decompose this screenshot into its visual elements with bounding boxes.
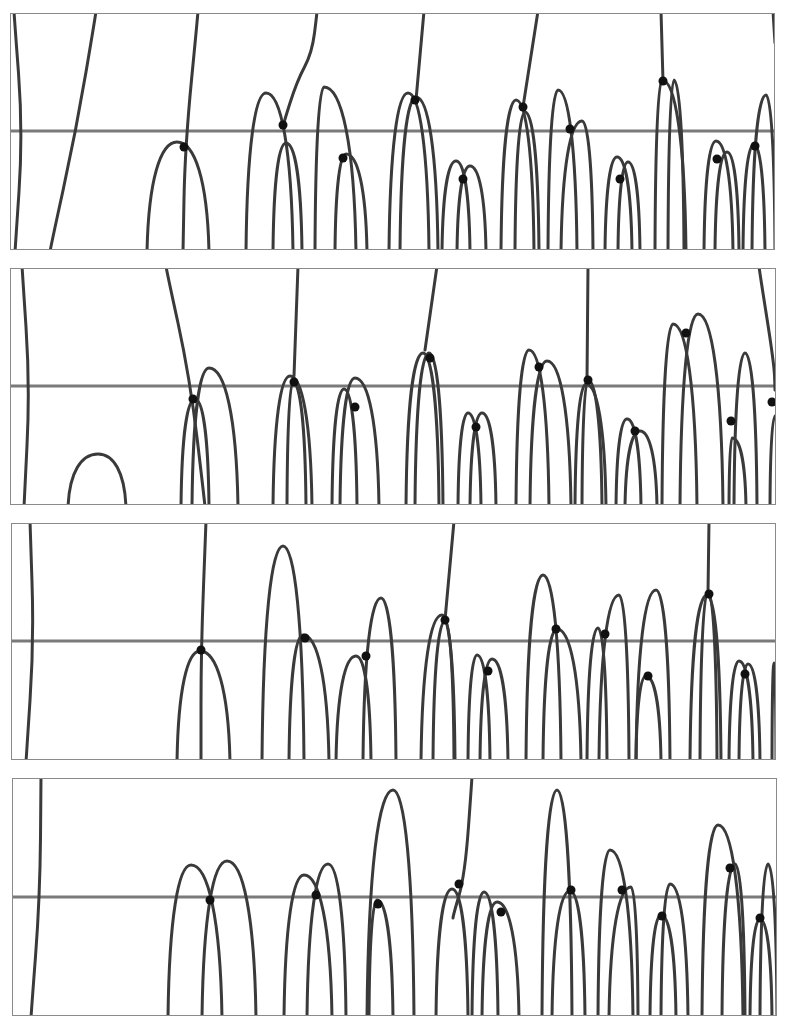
intersection-dot: [567, 886, 576, 895]
arch-curve: [482, 902, 519, 1018]
figure-canvas: [0, 0, 799, 1023]
intersection-dot: [713, 155, 722, 164]
arch-curve: [636, 676, 661, 762]
panel-1: [10, 11, 775, 252]
intersection-dot: [497, 908, 506, 917]
arch-curve: [542, 790, 572, 1018]
intersection-dot: [616, 175, 625, 184]
intersection-dot: [484, 667, 493, 676]
intersection-dot: [566, 125, 575, 134]
arch-curve: [739, 664, 760, 762]
arch-curve: [262, 546, 304, 762]
intersection-dot: [441, 616, 450, 625]
intersection-dot: [618, 886, 627, 895]
arch-curve: [552, 891, 585, 1018]
intersection-dot: [726, 864, 735, 873]
intersection-dot: [601, 630, 610, 639]
intersection-dot: [658, 912, 667, 921]
intersection-dot: [351, 403, 360, 412]
intersection-dot: [301, 634, 310, 643]
arch-curve: [599, 595, 629, 762]
arch-curve: [480, 659, 508, 762]
arch-curve: [530, 361, 571, 507]
intersection-dot: [741, 670, 750, 679]
intersection-dot: [279, 121, 288, 130]
branch-line: [661, 11, 663, 81]
branch-line: [283, 11, 317, 127]
intersection-dot: [552, 625, 561, 634]
panel-2: [10, 266, 780, 507]
arch-curve: [598, 850, 633, 1018]
intersection-dot: [727, 417, 736, 426]
intersection-dot: [197, 646, 206, 655]
arch-curve: [147, 142, 209, 252]
branch-line: [294, 266, 298, 376]
intersection-dot: [374, 900, 383, 909]
intersection-dot: [535, 363, 544, 372]
intersection-dot: [472, 423, 481, 432]
arch-curve: [369, 900, 393, 1018]
arch-curve: [177, 651, 230, 762]
arch-curve: [168, 865, 222, 1018]
branch-line: [523, 11, 538, 107]
branch-line: [708, 521, 709, 593]
intersection-dot: [455, 880, 464, 889]
intersection-dot: [411, 96, 420, 105]
arch-curve: [582, 380, 602, 507]
arch-curve: [636, 590, 670, 762]
arch-curve: [340, 378, 379, 507]
arch-curve: [202, 861, 256, 1018]
intersection-dot: [584, 376, 593, 385]
intersection-dot: [631, 427, 640, 436]
intersection-dot: [459, 175, 468, 184]
intersection-dot: [644, 672, 653, 681]
intersection-dot: [756, 914, 765, 923]
intersection-dot: [705, 590, 714, 599]
intersection-dot: [180, 143, 189, 152]
branch-line: [587, 266, 588, 380]
intersection-dot: [189, 395, 198, 404]
branch-line: [416, 11, 424, 100]
panel-4: [12, 776, 777, 1018]
intersection-dot: [362, 652, 371, 661]
intersection-dot: [682, 329, 691, 338]
intersection-dot: [659, 77, 668, 86]
arch-curve: [729, 438, 746, 507]
intersection-dot: [206, 896, 215, 905]
intersection-dot: [519, 103, 528, 112]
intersection-dot: [290, 378, 299, 387]
arch-curve: [68, 454, 126, 507]
intersection-dot: [339, 154, 348, 163]
panel-3: [11, 521, 776, 762]
intersection-dot: [312, 891, 321, 900]
arch-curve: [192, 368, 238, 507]
branch-line: [425, 266, 437, 350]
intersection-dot: [751, 142, 760, 151]
arch-curve: [436, 889, 468, 1018]
branch-line: [445, 521, 454, 620]
arch-curve: [680, 314, 723, 507]
intersection-dot: [426, 354, 435, 363]
branch-line: [759, 266, 775, 390]
arch-curve: [289, 635, 329, 762]
arch-curve: [363, 598, 396, 762]
